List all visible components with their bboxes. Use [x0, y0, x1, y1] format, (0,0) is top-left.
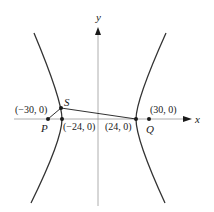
point-P [46, 117, 50, 121]
point-Q [147, 117, 151, 121]
y-axis-label: y [95, 11, 101, 23]
x-axis-label: x [194, 113, 200, 125]
label-S: S [64, 96, 70, 108]
label-Q-coord: (30, 0) [150, 104, 177, 116]
hyperbola-right-branch [136, 33, 166, 203]
hyperbola-diagram: y x (−30, 0) P (30, 0) Q S (−24, 0) (24,… [0, 0, 214, 212]
segment-P-S [48, 108, 61, 119]
y-axis-arrow-icon [95, 27, 101, 35]
x-axis-arrow-icon [183, 116, 192, 122]
segment-S-vertex [61, 108, 136, 119]
label-P: P [40, 122, 48, 134]
label-P-coord: (−30, 0) [15, 104, 47, 116]
diagram-svg: y x (−30, 0) P (30, 0) Q S (−24, 0) (24,… [0, 0, 214, 212]
label-left-vertex: (−24, 0) [63, 121, 95, 133]
label-Q: Q [146, 123, 154, 135]
point-right-vertex [134, 117, 138, 121]
point-S [59, 106, 63, 110]
label-right-vertex: (24, 0) [105, 121, 132, 133]
